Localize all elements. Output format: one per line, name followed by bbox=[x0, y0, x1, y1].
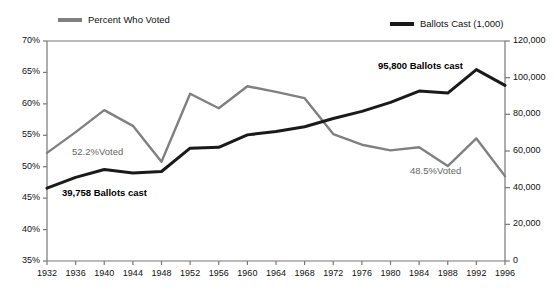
y-axis-right-tick-label: 20,000 bbox=[513, 218, 541, 228]
y-axis-right-tick-label: 80,000 bbox=[513, 108, 541, 118]
y-axis-left-tick-label: 50% bbox=[8, 161, 40, 171]
y-axis-right-tick-label: 40,000 bbox=[513, 182, 541, 192]
chart-container: Percent Who Voted Ballots Cast (1,000) 7… bbox=[0, 0, 554, 291]
y-axis-right-tick-label: 0 bbox=[513, 255, 518, 265]
y-axis-left-tick-label: 40% bbox=[8, 224, 40, 234]
y-axis-left-tick-label: 35% bbox=[8, 255, 40, 265]
y-axis-left-tick-label: 65% bbox=[8, 66, 40, 76]
y-axis-right-tick-label: 60,000 bbox=[513, 145, 541, 155]
ballots-start-label: 39,758 Ballots cast bbox=[62, 187, 147, 198]
y-axis-right-tick-label: 120,000 bbox=[513, 35, 546, 45]
y-axis-left-tick-label: 70% bbox=[8, 35, 40, 45]
x-axis-tick-label: 1996 bbox=[488, 268, 522, 278]
y-axis-left-tick-label: 60% bbox=[8, 98, 40, 108]
ballots-end-label: 95,800 Ballots cast bbox=[378, 60, 463, 71]
y-axis-right-tick-label: 100,000 bbox=[513, 72, 546, 82]
y-axis-left-tick-label: 45% bbox=[8, 192, 40, 202]
voted-start-label: 52.2%Voted bbox=[72, 146, 123, 157]
y-axis-left-tick-label: 55% bbox=[8, 129, 40, 139]
voted-end-label: 48.5%Voted bbox=[410, 165, 461, 176]
